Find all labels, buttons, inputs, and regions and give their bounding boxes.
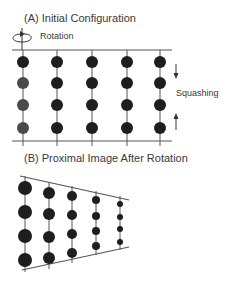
dot (18, 229, 32, 243)
dot (86, 77, 98, 89)
dot (43, 252, 55, 264)
dot (67, 229, 77, 239)
dot (17, 77, 29, 89)
diagram-canvas (0, 0, 230, 282)
dot (117, 239, 123, 245)
dot (117, 214, 123, 220)
dot (121, 99, 133, 111)
dot (86, 99, 98, 111)
dot (117, 226, 123, 232)
dot (43, 187, 55, 199)
dot (154, 99, 166, 111)
dot (86, 56, 98, 68)
rotation-icon (13, 28, 31, 50)
dot (92, 212, 100, 220)
dot (92, 196, 100, 204)
panel-a-grid (17, 50, 166, 146)
dot (51, 56, 63, 68)
dot (121, 122, 133, 134)
dot (18, 253, 32, 267)
squash-down-arrow (174, 64, 179, 79)
dot (18, 181, 32, 195)
dot (17, 99, 29, 111)
dot (51, 99, 63, 111)
dot (51, 122, 63, 134)
dot (86, 122, 98, 134)
dot (154, 122, 166, 134)
dot (17, 122, 29, 134)
dot (67, 248, 77, 258)
dot (92, 227, 100, 235)
dot (121, 77, 133, 89)
dot (17, 56, 29, 68)
dot (67, 191, 77, 201)
squash-up-arrow (174, 113, 179, 130)
dot (117, 201, 123, 207)
dot (154, 77, 166, 89)
dot (92, 242, 100, 250)
dot (121, 56, 133, 68)
dot (18, 205, 32, 219)
dot (51, 77, 63, 89)
dot (154, 56, 166, 68)
dot (43, 231, 55, 243)
panel-b-grid (18, 176, 123, 272)
dot (67, 210, 77, 220)
dot (43, 208, 55, 220)
